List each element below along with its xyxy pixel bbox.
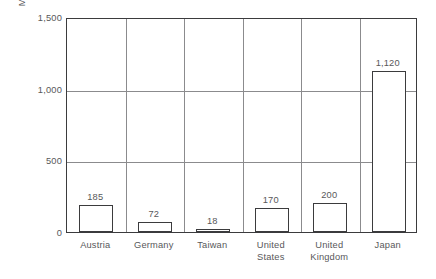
y-axis-tick-labels: 05001,0001,500	[0, 0, 62, 279]
x-tick-label: Japan	[352, 240, 424, 252]
y-tick-label: 0	[4, 228, 62, 238]
gridline-horizontal	[67, 162, 416, 163]
gridline-vertical	[360, 19, 361, 232]
gridline-vertical	[184, 19, 185, 232]
y-tick-label: 1,000	[4, 85, 62, 95]
bar-value-label: 170	[241, 195, 301, 205]
y-tick-label: 500	[4, 156, 62, 166]
y-tick-label: 1,500	[4, 13, 62, 23]
gridline-horizontal	[67, 91, 416, 92]
bar	[79, 205, 113, 232]
bar-value-label: 72	[124, 209, 184, 219]
gridline-vertical	[126, 19, 127, 232]
bar	[196, 229, 230, 233]
bar-value-label: 18	[182, 216, 242, 226]
bar-value-label: 185	[65, 192, 125, 202]
bar	[255, 208, 289, 232]
bar	[372, 71, 406, 232]
bar-value-label: 200	[299, 190, 359, 200]
bar-value-label: 1,120	[358, 58, 418, 68]
bar	[138, 222, 172, 232]
bar-chart: Megabytes/1,000 employees 05001,0001,500…	[0, 0, 436, 279]
bar	[313, 203, 347, 232]
